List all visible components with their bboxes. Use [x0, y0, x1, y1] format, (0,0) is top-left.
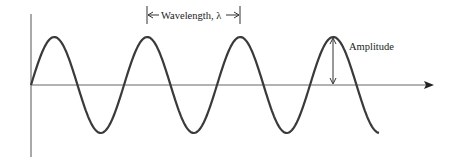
wave-diagram: Wavelength, λ Amplitude: [0, 0, 452, 166]
amplitude-label: Amplitude: [349, 41, 394, 52]
amplitude-marker: Amplitude: [330, 38, 394, 84]
wavelength-label: Wavelength, λ: [161, 10, 222, 21]
wavelength-marker: Wavelength, λ: [147, 6, 240, 24]
